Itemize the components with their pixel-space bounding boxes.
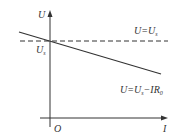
dashed-line-label: U=Us (134, 26, 158, 37)
y-axis-arrow-icon (48, 10, 53, 17)
intercept-label: Us (36, 45, 46, 56)
x-axis-arrow-icon (161, 116, 168, 121)
origin-label: O (54, 124, 61, 134)
graph-canvas (0, 0, 177, 139)
sloped-line-label: U=Us−IR0 (120, 85, 163, 96)
y-axis-label: U (38, 10, 45, 20)
x-axis-label: I (163, 124, 166, 134)
